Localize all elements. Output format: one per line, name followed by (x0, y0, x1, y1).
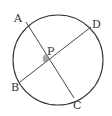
label-c: C (73, 99, 81, 112)
label-p: P (47, 45, 55, 58)
label-b: B (11, 81, 19, 94)
label-d: D (92, 18, 101, 31)
geometry-figure: A D P B C (0, 0, 112, 116)
circle-diagram: A D P B C (0, 0, 112, 116)
chord-ac (26, 22, 74, 98)
chord-bd (20, 27, 91, 82)
label-a: A (13, 12, 23, 25)
